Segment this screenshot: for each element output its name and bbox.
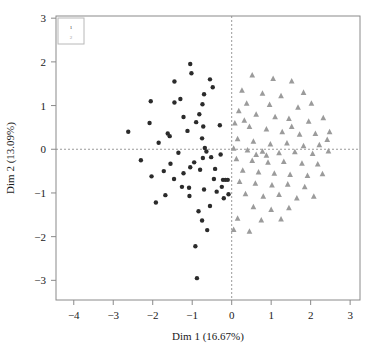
- data-point-triangle: [320, 115, 326, 121]
- data-point-triangle: [295, 104, 301, 110]
- data-point-triangle: [279, 129, 285, 135]
- data-point-triangle: [327, 129, 333, 135]
- data-point-triangle: [276, 150, 282, 156]
- data-point-circle: [181, 115, 185, 119]
- data-point-triangle: [244, 100, 250, 106]
- data-point-triangle: [306, 118, 312, 124]
- y-axis-ticks: −3−2−10123: [34, 12, 56, 286]
- y-tick-label: 0: [41, 143, 47, 155]
- data-point-circle: [188, 165, 192, 169]
- data-point-triangle: [299, 160, 305, 166]
- data-point-triangle: [269, 182, 275, 188]
- data-point-triangle: [313, 130, 319, 136]
- data-point-circle: [198, 168, 202, 172]
- data-point-circle: [196, 209, 200, 213]
- data-point-circle: [204, 149, 208, 153]
- data-point-circle: [139, 158, 143, 162]
- data-point-triangle: [324, 137, 330, 143]
- data-point-triangle: [278, 93, 284, 99]
- data-point-circle: [193, 244, 197, 248]
- x-axis-ticks: −4−3−2−10123: [68, 300, 353, 321]
- data-point-triangle: [235, 215, 241, 221]
- axis-frame: [56, 16, 360, 300]
- data-point-triangle: [305, 172, 311, 178]
- data-point-circle: [220, 185, 224, 189]
- legend-box[interactable]: [58, 18, 84, 44]
- data-point-triangle: [301, 143, 307, 149]
- data-point-circle: [180, 185, 184, 189]
- data-point-triangle: [311, 193, 317, 199]
- data-point-circle: [176, 151, 180, 155]
- reference-lines: [56, 16, 360, 300]
- data-point-circle: [187, 194, 191, 198]
- x-axis-label: Dim 1 (16.67%): [172, 330, 244, 343]
- x-tick-label: −2: [147, 309, 159, 321]
- data-point-triangle: [268, 141, 274, 147]
- data-point-triangle: [302, 184, 308, 190]
- x-tick-label: −4: [68, 309, 80, 321]
- data-point-triangle: [268, 206, 274, 212]
- data-point-circle: [187, 186, 191, 190]
- data-point-triangle: [253, 151, 259, 157]
- data-point-triangle: [236, 108, 242, 114]
- x-tick-label: 2: [308, 309, 314, 321]
- data-point-circle: [172, 177, 176, 181]
- data-point-triangle: [310, 151, 316, 157]
- data-point-triangle: [260, 193, 266, 199]
- data-point-circle: [226, 192, 230, 196]
- data-point-circle: [195, 276, 199, 280]
- data-point-circle: [192, 160, 196, 164]
- data-point-triangle: [256, 169, 262, 175]
- data-point-circle: [194, 120, 198, 124]
- data-point-triangle: [232, 120, 238, 126]
- chart-legend[interactable]: 12: [58, 18, 84, 44]
- data-point-circle: [172, 100, 176, 104]
- data-point-triangle: [289, 123, 295, 129]
- data-point-circle: [201, 124, 205, 128]
- data-point-triangle: [289, 78, 295, 84]
- x-tick-label: −3: [107, 309, 119, 321]
- data-point-triangle: [284, 140, 290, 146]
- data-point-circle: [163, 193, 167, 197]
- data-point-circle: [202, 92, 206, 96]
- data-point-circle: [205, 228, 209, 232]
- data-point-triangle: [271, 170, 277, 176]
- data-point-triangle: [286, 116, 292, 122]
- plot-border: [56, 16, 360, 300]
- data-point-triangle: [249, 158, 255, 164]
- data-point-circle: [226, 178, 230, 182]
- data-point-triangle: [326, 148, 332, 154]
- data-point-triangle: [285, 181, 291, 187]
- data-point-circle: [222, 196, 226, 200]
- data-point-circle: [211, 85, 215, 89]
- data-point-triangle: [267, 102, 273, 108]
- data-point-circle: [185, 129, 189, 133]
- data-point-circle: [168, 161, 172, 165]
- x-tick-label: 3: [347, 309, 353, 321]
- data-point-circle: [209, 155, 213, 159]
- data-point-triangle: [245, 147, 251, 153]
- data-point-circle: [208, 204, 212, 208]
- data-point-circle: [154, 200, 158, 204]
- data-point-circle: [200, 218, 204, 222]
- y-tick-label: 2: [41, 56, 47, 68]
- data-point-circle: [181, 171, 185, 175]
- data-point-triangle: [234, 156, 240, 162]
- y-tick-label: 1: [41, 100, 47, 112]
- data-point-triangle: [258, 217, 264, 223]
- data-point-circle: [172, 79, 176, 83]
- data-point-circle: [202, 187, 206, 191]
- data-point-circle: [200, 136, 204, 140]
- data-point-triangle: [270, 75, 276, 81]
- data-point-triangle: [265, 159, 271, 165]
- data-point-circle: [212, 177, 216, 181]
- data-point-triangle: [278, 216, 284, 222]
- data-point-triangle: [251, 138, 257, 144]
- y-tick-label: −1: [34, 187, 46, 199]
- data-point-triangle: [286, 205, 292, 211]
- data-point-circle: [208, 77, 212, 81]
- data-point-circle: [156, 141, 160, 145]
- data-point-triangle: [260, 90, 266, 96]
- data-point-circle: [149, 174, 153, 178]
- data-point-triangle: [241, 117, 247, 123]
